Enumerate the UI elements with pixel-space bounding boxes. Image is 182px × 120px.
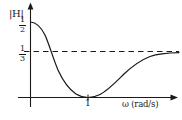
y-tick-one-half-denominator: 2 xyxy=(19,26,26,34)
y-tick-one-third-numerator: 1 xyxy=(19,45,26,53)
y-tick-one-third-denominator: 3 xyxy=(19,55,26,63)
x-axis-arrowhead xyxy=(171,95,179,101)
x-axis-title: ω (rad/s) xyxy=(122,100,158,109)
x-tick-label-1: 1 xyxy=(85,99,91,108)
y-tick-label-one-third: 1 3 xyxy=(19,45,26,63)
y-tick-one-half-numerator: 1 xyxy=(19,16,26,24)
y-tick-label-one-half: 1 2 xyxy=(19,16,26,34)
frequency-response-figure: |H| 1 2 1 3 1 ω (rad/s) xyxy=(0,0,182,120)
y-axis-arrowhead xyxy=(28,3,34,10)
magnitude-response-curve xyxy=(31,22,180,98)
